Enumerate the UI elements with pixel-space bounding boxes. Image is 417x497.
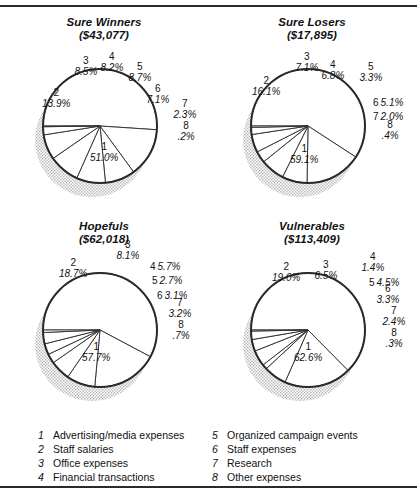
legend-item-label: Staff salaries: [53, 442, 114, 456]
pie-slice-value: 8.7%: [129, 72, 152, 83]
pie-slice-label: 38.1%: [117, 239, 140, 261]
legend-item: 2Staff salaries: [38, 442, 184, 456]
legend-item: 6Staff expenses: [212, 442, 358, 456]
pie-slice-value: 3.3%: [360, 72, 383, 83]
pie-slice-number: 8: [178, 120, 195, 131]
pie-slice-number: 8: [173, 319, 190, 330]
pie-slice-value: 2.7%: [160, 275, 183, 286]
pie-slice-number: 2: [252, 75, 280, 86]
legend-item: 5Organized campaign events: [212, 428, 358, 442]
pie-slice-number: 2: [272, 261, 300, 272]
pie-slice-label: 159.1%: [290, 143, 318, 165]
pie-slice-value: 16.1%: [252, 86, 280, 97]
pie-slice-label: 216.1%: [252, 75, 280, 97]
pie-slice-label: 162.6%: [294, 341, 322, 363]
pie-slice-label: 65.1%: [373, 97, 403, 108]
pie-slice-label: 36.5%: [315, 259, 338, 281]
legend-item-number: 4: [38, 470, 53, 484]
pie-slice-value: 2.4%: [383, 316, 406, 327]
pie-slice-number: 7: [373, 111, 379, 122]
pie-slice-number: 3: [75, 55, 98, 66]
pie-slice-value: 62.6%: [294, 352, 322, 363]
pie-slice-number: 4: [101, 51, 124, 62]
pie-slice-value: .4%: [382, 130, 399, 141]
pie-slice-value: 18.7%: [59, 268, 87, 279]
legend-item-label: Financial transactions: [53, 470, 155, 484]
pie-slice-value: 5.1%: [381, 97, 404, 108]
legend-item-label: Organized campaign events: [227, 428, 358, 442]
pie-slice-number: 3: [117, 239, 140, 250]
legend-item: 8Other expenses: [212, 470, 358, 484]
pie-slice-label: 41.4%: [362, 251, 385, 273]
legend-item-label: Staff expenses: [227, 442, 296, 456]
legend-item-number: 8: [212, 470, 227, 484]
pie-panel-sure-losers: Sure Losers ($17,895) 159.1%216.1%37.1%4…: [208, 14, 416, 222]
pie-slice-number: 3: [315, 259, 338, 270]
pie-slice-value: 7.1%: [296, 62, 319, 73]
pie-slice-label: 38.5%: [75, 55, 98, 77]
pie-slice-label: 8.3%: [386, 327, 403, 349]
pie-slice-number: 6: [157, 290, 163, 301]
pie-slice-number: 6: [147, 83, 170, 94]
pie-slice-number: 7: [383, 305, 406, 316]
pie-slice-value: 3.3%: [377, 294, 400, 305]
pie-slice-number: 5: [369, 277, 375, 288]
legend-column: 1Advertising/media expenses2Staff salari…: [38, 428, 184, 484]
top-rule: [0, 5, 417, 7]
pie-slice-value: .2%: [178, 131, 195, 142]
pie-slice-label: 53.3%: [360, 61, 383, 83]
legend-item: 3Office expenses: [38, 456, 184, 470]
legend-item-number: 5: [212, 428, 227, 442]
pie-slice-number: 5: [360, 61, 383, 72]
pie-slice-number: 8: [386, 327, 403, 338]
pie-slice-value: 5.7%: [158, 261, 181, 272]
pie-slice-label: 46.8%: [322, 59, 345, 81]
pie-slice-label: 72.4%: [383, 305, 406, 327]
pie-slice-number: 6: [373, 97, 379, 108]
pie-slice-label: 45.7%: [150, 261, 180, 272]
pie-slice-label: 72.3%: [174, 98, 197, 120]
pie-slice-number: 4: [150, 261, 156, 272]
pie-slice-value: 8.1%: [117, 250, 140, 261]
legend-item-label: Office expenses: [53, 456, 128, 470]
legend-item-number: 1: [38, 428, 53, 442]
pie-slice-number: 5: [152, 275, 158, 286]
legend-item-label: Other expenses: [227, 470, 301, 484]
pie-slice-value: .7%: [173, 330, 190, 341]
bottom-rule: [0, 486, 417, 488]
pie-panel-sure-winners: Sure Winners ($43,077) 151.0%213.9%38.5%…: [0, 14, 208, 222]
legend-item-label: Research: [227, 456, 272, 470]
pie-slice-number: 3: [296, 51, 319, 62]
figure-canvas: Sure Winners ($43,077) 151.0%213.9%38.5%…: [0, 0, 417, 497]
legend-item-label: Advertising/media expenses: [53, 428, 184, 442]
legend-item: 1Advertising/media expenses: [38, 428, 184, 442]
pie-panel-vulnerables: Vulnerables ($113,409) 162.6%219.0%36.5%…: [208, 218, 416, 426]
pie-slice-label: 48.2%: [101, 51, 124, 73]
pie-slice-value: 7.1%: [147, 94, 170, 105]
legend: 1Advertising/media expenses2Staff salari…: [0, 428, 417, 484]
pie-slice-value: 6.8%: [322, 70, 345, 81]
pie-slice-number: 1: [290, 143, 318, 154]
pie-slice-number: 1: [90, 141, 118, 152]
pie-slice-number: 6: [377, 283, 400, 294]
legend-column: 5Organized campaign events6Staff expense…: [212, 428, 358, 484]
pie-slice-value: 1.4%: [362, 262, 385, 273]
pie-slice-value: 13.9%: [42, 98, 70, 109]
legend-item-number: 7: [212, 456, 227, 470]
pie-slice-number: 4: [362, 251, 385, 262]
legend-item-number: 6: [212, 442, 227, 456]
pie-slice-value: 8.2%: [101, 62, 124, 73]
pie-slice-value: 57.7%: [82, 352, 110, 363]
pie-slice-label: 218.7%: [59, 257, 87, 279]
legend-item: 7Research: [212, 456, 358, 470]
pie-slice-value: 8.5%: [75, 66, 98, 77]
pie-slice-number: 1: [294, 341, 322, 352]
pie-slice-label: 52.7%: [152, 275, 182, 286]
pie-slice-label: 219.0%: [272, 261, 300, 283]
pie-slice-label: 63.3%: [377, 283, 400, 305]
pie-slice-number: 5: [129, 61, 152, 72]
pie-slice-label: 8.4%: [382, 119, 399, 141]
pie-slice-label: 37.1%: [296, 51, 319, 73]
pie-slice-number: 7: [174, 98, 197, 109]
legend-item-number: 2: [38, 442, 53, 456]
